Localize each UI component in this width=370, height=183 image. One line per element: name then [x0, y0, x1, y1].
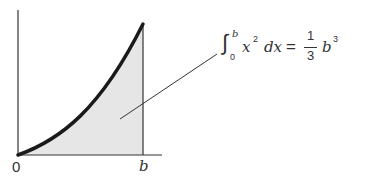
equals-sign: = — [286, 37, 296, 57]
result-exponent: 3 — [333, 34, 338, 44]
origin-label: 0 — [12, 158, 20, 175]
integral-sign: ∫ — [222, 30, 228, 56]
fraction-denominator: 3 — [307, 48, 314, 63]
fraction-numerator: 1 — [307, 28, 314, 43]
lower-limit: 0 — [230, 52, 235, 62]
shaded-area — [18, 24, 143, 155]
integrand-exponent: 2 — [253, 34, 258, 44]
b-label: b — [139, 157, 149, 175]
differential: dx — [264, 38, 282, 56]
upper-limit: b — [232, 28, 238, 39]
area-diagram — [0, 0, 370, 183]
integrand-var: x — [242, 38, 250, 56]
result-var: b — [322, 38, 332, 56]
